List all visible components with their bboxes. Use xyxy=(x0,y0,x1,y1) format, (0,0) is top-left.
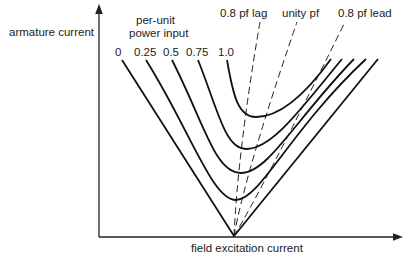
unity-pf-label: unity pf xyxy=(282,8,319,20)
legend-title-line1: per-unit xyxy=(136,15,175,27)
pf-lag-line xyxy=(234,22,260,236)
power-label-0: 0 xyxy=(115,47,121,59)
legend-title-line2: power input xyxy=(129,28,188,40)
power-label-0.75: 0.75 xyxy=(186,47,208,59)
curve-power-1.0 xyxy=(227,59,331,117)
power-label-0.25: 0.25 xyxy=(134,47,156,59)
unity-pf-line xyxy=(234,22,297,236)
power-label-1.0: 1.0 xyxy=(218,47,234,59)
y-axis-label: armature current xyxy=(9,27,94,39)
power-label-0.5: 0.5 xyxy=(163,47,179,59)
curve-power-0.25 xyxy=(146,59,366,200)
x-axis-label: field excitation current xyxy=(191,243,303,255)
pf-lag-label: 0.8 pf lag xyxy=(220,8,267,20)
pf-lead-line xyxy=(234,22,345,236)
pf-lead-label: 0.8 pf lead xyxy=(338,8,392,20)
